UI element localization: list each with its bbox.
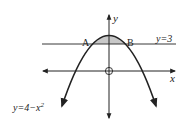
x-axis-label: x [169, 72, 175, 84]
line-equation-label: y=3 [155, 33, 172, 44]
curve-equation-label: y=4−x2 [12, 101, 44, 113]
parabola-diagram: y x A B y=3 y=4−x2 [0, 0, 186, 123]
point-b-label: B [127, 37, 134, 48]
y-axis-label: y [112, 12, 118, 24]
point-a-label: A [82, 37, 90, 48]
